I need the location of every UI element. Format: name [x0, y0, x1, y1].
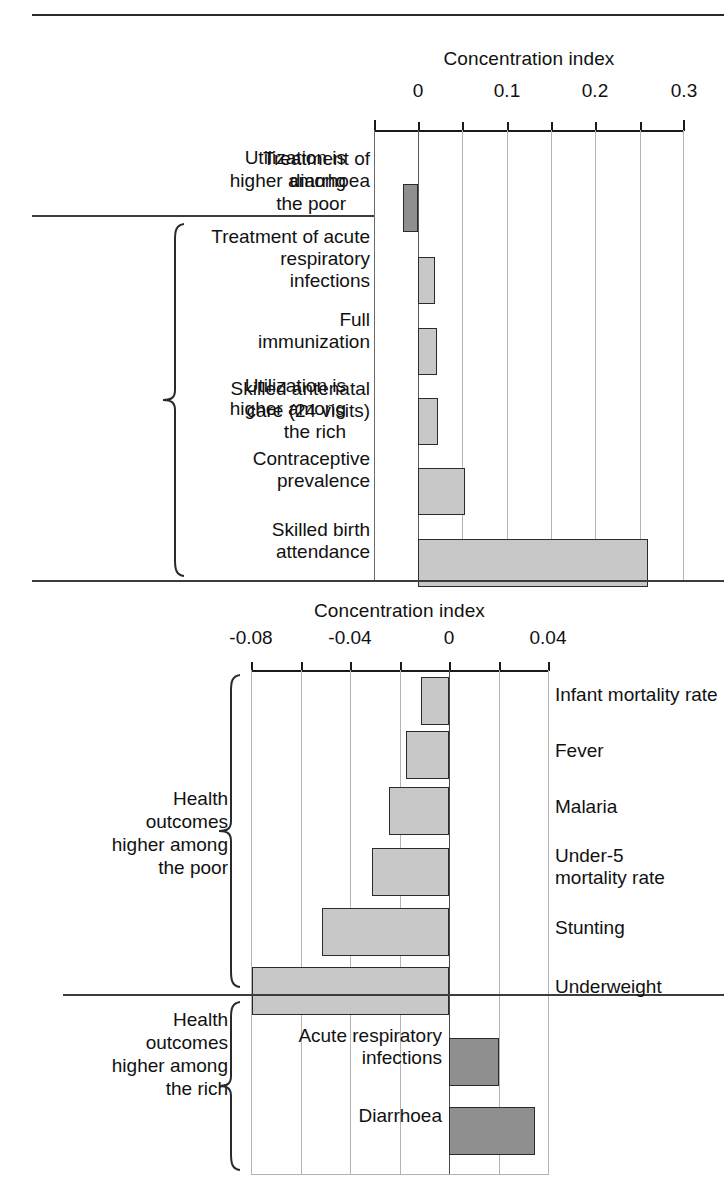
bar-under-5-mortality-rate	[372, 848, 449, 896]
panel-a-category-skilled-birth-attendance: Skilled birth attendance	[140, 519, 370, 563]
bar-stunting	[322, 908, 449, 956]
panel-b-category-acute-respiratory-infections: Acute respiratory infections	[182, 1025, 442, 1069]
panel-b-gridline	[499, 670, 500, 1175]
bar-acute-respiratory-infections	[449, 1038, 499, 1086]
panel-a-category-treatment-of-diarrhoea: Treatment of diarrhoea	[140, 148, 370, 192]
panel-a-gridline	[640, 130, 641, 580]
panel-a-gridline	[683, 130, 684, 580]
bar-underweight	[252, 967, 449, 1015]
bar-contraceptive-prevalence	[418, 468, 465, 515]
panel-a-gridline	[507, 130, 508, 580]
panel-a-category-skilled-antenatal-care: Skilled antenatal care (24 visits)	[130, 378, 370, 422]
bar-full-immunization	[418, 328, 437, 375]
panel-a-plot-area	[374, 130, 684, 580]
figure-page: Concentration index 0 0.1 0.2 0.3	[0, 0, 724, 1183]
panel-b-category-infant-mortality-rate: Infant mortality rate	[555, 684, 724, 706]
panel-a-category-full-immunization: Full immunization	[140, 309, 370, 353]
panel-a-bottom-rule	[32, 580, 724, 582]
bar-infant-mortality-rate	[421, 677, 449, 725]
panel-b-gridline	[251, 670, 252, 1175]
panel-a-gridline	[595, 130, 596, 580]
panel-b-zero-line	[449, 670, 450, 1175]
bar-treatment-of-diarrhoea	[403, 184, 418, 232]
panel-a-xtick-0: 0	[413, 80, 424, 102]
panel-b-axis-title: Concentration index	[251, 600, 548, 622]
bar-malaria	[389, 787, 449, 835]
panel-b-category-malaria: Malaria	[555, 796, 724, 818]
panel-b-gridline	[548, 670, 549, 1175]
panel-a-xtick-0.2: 0.2	[582, 80, 608, 102]
panel-b-plot-area	[251, 670, 548, 1175]
panel-a-axis-title: Concentration index	[374, 48, 684, 70]
panel-b-category-diarrhoea: Diarrhoea	[182, 1105, 442, 1127]
panel-b-xtick-0: 0	[444, 627, 455, 649]
panel-a-xtick-0.1: 0.1	[494, 80, 520, 102]
panel-a-xtick-0.3: 0.3	[671, 80, 697, 102]
panel-b-category-under-5-mortality-rate: Under-5 mortality rate	[555, 845, 724, 889]
panel-b-category-fever: Fever	[555, 740, 724, 762]
panel-utilization: Concentration index 0 0.1 0.2 0.3	[0, 34, 724, 579]
panel-b-group-brace-poor	[216, 673, 242, 989]
panel-b-group-label-poor: Health outcomes higher among the poor	[38, 787, 228, 879]
bar-fever	[406, 731, 449, 779]
panel-b-xtick-0.04: 0.04	[530, 627, 567, 649]
panel-a-category-contraceptive-prevalence: Contraceptive prevalence	[140, 448, 370, 492]
panel-a-gridline	[551, 130, 552, 580]
panel-a-group-separator	[32, 215, 374, 217]
bar-treatment-of-acute-respiratory-infections	[418, 257, 435, 304]
panel-b-category-stunting: Stunting	[555, 917, 724, 939]
panel-b-category-underweight: Underweight	[555, 976, 724, 998]
panel-b-xtick--0.08: -0.08	[229, 627, 272, 649]
panel-b-xtick--0.04: -0.04	[328, 627, 371, 649]
top-divider-rule	[32, 14, 724, 16]
bar-skilled-antenatal-care	[418, 398, 438, 445]
panel-a-plot-left-edge	[374, 130, 375, 580]
bar-diarrhoea	[449, 1107, 535, 1155]
panel-b-plot-bottom-edge	[251, 1174, 548, 1175]
panel-b-gridline	[301, 670, 302, 1175]
panel-health-outcomes: Concentration index -0.08 -0.04 0 0.04	[0, 600, 724, 1183]
panel-a-category-treatment-of-acute-respiratory-infections: Treatment of acute respiratory infection…	[120, 226, 370, 292]
